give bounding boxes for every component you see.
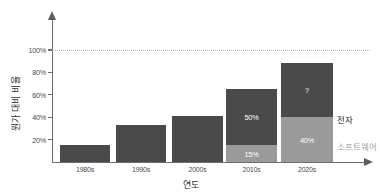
x-axis-arrowhead: [364, 158, 373, 166]
y-tick-label: 80%: [32, 68, 46, 77]
x-axis-label-1980s: 1980s: [60, 166, 110, 173]
y-tick-label: 60%: [32, 90, 46, 99]
x-axis-label-2020s: 2020s: [281, 166, 333, 173]
chart-container: 20%40%60%80%100% 50%15%?40% 1980s1990s20…: [0, 0, 383, 195]
y-tick-mark: [48, 117, 52, 118]
y-tick-label: 20%: [32, 135, 46, 144]
y-axis-title: 원가 대비 비율: [9, 49, 22, 159]
bar-segment-software-2010s: 15%: [226, 145, 277, 162]
y-tick-mark: [48, 72, 52, 73]
bar-segment-electronics-2020s: ?: [281, 63, 333, 117]
y-tick-label: 100%: [28, 46, 46, 55]
y-tick-mark: [48, 94, 52, 95]
bar-segment-electronics-1990s: [116, 125, 166, 162]
reference-line-100: [52, 50, 370, 51]
legend-label-electronics: 전자: [337, 113, 353, 125]
bar-group-2000s: [172, 116, 223, 162]
legend-label-software: 소프트웨어: [337, 140, 377, 152]
bar-segment-software-2020s: 40%: [281, 117, 333, 162]
bar-segment-electronics-2000s: [172, 116, 223, 162]
bar-value-label-electronics-2010s: 50%: [226, 113, 277, 122]
y-tick-label: 40%: [32, 113, 46, 122]
x-axis-label-1990s: 1990s: [116, 166, 166, 173]
bar-group-2020s: ?40%: [281, 63, 333, 162]
x-axis-title: 연도: [0, 178, 383, 191]
bar-value-label-software-2020s: 40%: [281, 135, 333, 144]
bar-value-label-electronics-2020s: ?: [281, 86, 333, 95]
y-axis-arrowhead: [48, 11, 56, 20]
bar-value-label-software-2010s: 15%: [226, 149, 277, 158]
bar-group-1980s: [60, 145, 110, 162]
bar-segment-electronics-1980s: [60, 145, 110, 162]
y-tick-mark: [48, 139, 52, 140]
y-axis-line: [52, 18, 53, 162]
bar-group-2010s: 50%15%: [226, 89, 277, 162]
x-axis-label-2000s: 2000s: [172, 166, 223, 173]
bar-group-1990s: [116, 125, 166, 162]
x-axis-label-2010s: 2010s: [226, 166, 277, 173]
y-tick-mark: [48, 49, 52, 50]
bar-segment-electronics-2010s: 50%: [226, 89, 277, 145]
